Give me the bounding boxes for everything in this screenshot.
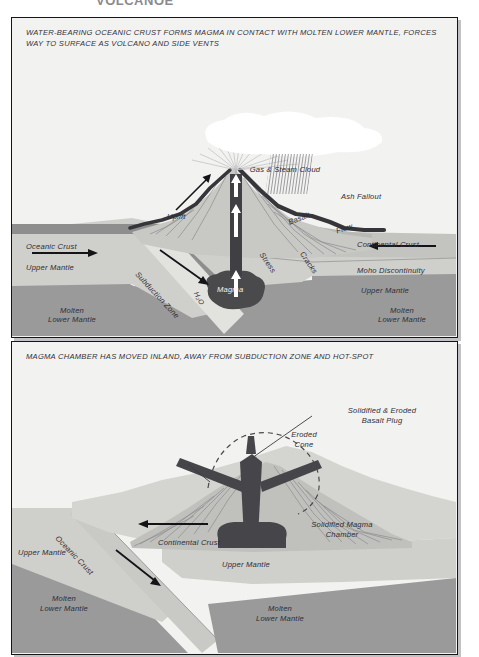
label-ash-fallout: Ash Fallout	[341, 192, 381, 202]
label-magma: Magma	[217, 285, 243, 295]
solidified-magma-chamber-base	[217, 522, 286, 548]
label-gas-steam-cloud: Gas & Steam Cloud	[250, 165, 321, 175]
label-eroded-cone-2: Cone	[295, 440, 314, 450]
label-molten-lower-right-2-2: Lower Mantle	[256, 614, 304, 624]
label-uplift: Uplift	[167, 212, 186, 222]
label-upper-mantle-left: Upper Mantle	[26, 263, 74, 273]
label-eroded-cone-1: Eroded	[291, 430, 317, 440]
label-oceanic-crust: Oceanic Crust	[26, 242, 77, 252]
diagram-page: VOLCANOE	[0, 0, 479, 657]
label-upper-mantle-right: Upper Mantle	[361, 286, 409, 296]
panel-2-caption: MAGMA CHAMBER HAS MOVED INLAND, AWAY FRO…	[26, 352, 441, 363]
label-solidified-plug-1: Solidified & Eroded	[348, 406, 416, 416]
label-molten-lower-left-2-1: Molten	[52, 594, 76, 604]
label-solidified-chamber-2: Chamber	[326, 530, 359, 540]
label-solidified-chamber-1: Solidified Magma	[311, 520, 372, 530]
label-continental-crust: Continental Crust	[357, 240, 419, 250]
panel-stage-2: MAGMA CHAMBER HAS MOVED INLAND, AWAY FRO…	[11, 341, 458, 655]
label-molten-lower-mantle-left-2: Lower Mantle	[48, 315, 96, 325]
label-molten-lower-mantle-right-2: Lower Mantle	[378, 315, 426, 325]
label-molten-lower-right-2-1: Molten	[268, 604, 292, 614]
label-upper-mantle-right-2: Upper Mantle	[222, 560, 270, 570]
cropped-page-heading: VOLCANOE	[96, 0, 246, 7]
label-upper-mantle-left-2: Upper Mantle	[18, 548, 66, 558]
label-solidified-plug-2: Basalt Plug	[362, 416, 403, 426]
panel-1-caption: WATER-BEARING OCEANIC CRUST FORMS MAGMA …	[26, 28, 441, 49]
panel-stage-1: WATER-BEARING OCEANIC CRUST FORMS MAGMA …	[11, 17, 458, 338]
label-molten-lower-left-2-2: Lower Mantle	[40, 604, 88, 614]
label-continental-crust-2: Continental Crust	[158, 538, 220, 548]
label-moho-discontinuity: Moho Discontinuity	[357, 266, 425, 276]
